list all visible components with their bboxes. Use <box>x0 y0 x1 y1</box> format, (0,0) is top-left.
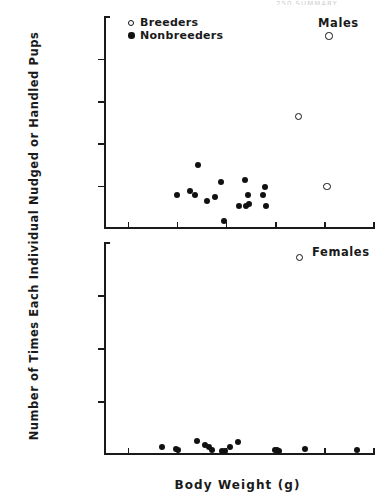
legend: Breeders Nonbreeders <box>128 16 223 42</box>
data-point <box>204 198 210 204</box>
data-point <box>195 162 201 168</box>
legend-item-nonbreeders: Nonbreeders <box>128 29 223 42</box>
data-point <box>354 447 360 453</box>
x-tick <box>128 448 130 455</box>
data-point <box>260 192 266 198</box>
data-point <box>159 444 165 450</box>
data-point <box>325 32 332 39</box>
data-point <box>209 447 215 453</box>
x-tick <box>373 222 375 229</box>
panel-label-males: Males <box>318 16 359 30</box>
filled-circle-icon <box>128 32 140 39</box>
data-point <box>235 439 241 445</box>
plot-area-females: 90180270360 102030405060 <box>104 243 374 455</box>
data-point <box>302 446 308 452</box>
y-tick <box>98 186 105 188</box>
y-tick <box>98 401 105 403</box>
x-tick <box>324 448 326 455</box>
x-tick <box>275 222 277 229</box>
data-point <box>218 179 224 185</box>
y-tick <box>98 143 105 145</box>
y-axis-title: Number of Times Each Individual Nudged o… <box>27 26 41 446</box>
data-point <box>295 113 302 120</box>
data-point <box>245 192 251 198</box>
data-point <box>262 184 268 190</box>
open-circle-icon <box>128 20 140 26</box>
y-tick <box>98 101 105 103</box>
x-tick <box>373 448 375 455</box>
data-point <box>323 183 330 190</box>
y-axis-line-males <box>104 17 106 229</box>
data-point <box>174 192 180 198</box>
x-axis-title: Body Weight (g) <box>95 478 380 492</box>
legend-item-breeders: Breeders <box>128 16 223 29</box>
y-tick <box>104 16 110 18</box>
data-point <box>227 444 233 450</box>
panel-males: 20406080100 Breeders Nonbreeders <box>104 17 374 229</box>
x-tick <box>128 222 130 229</box>
panel-label-females: Females <box>312 245 370 259</box>
data-point <box>192 192 198 198</box>
legend-label-breeders: Breeders <box>140 16 198 29</box>
data-point <box>242 177 248 183</box>
y-tick <box>98 59 105 61</box>
y-tick <box>98 348 105 350</box>
data-point <box>221 218 227 224</box>
data-point <box>236 203 242 209</box>
page-header-crop-artifact: 250 SUMMARY <box>276 0 384 5</box>
data-point <box>263 203 269 209</box>
panel-females: 90180270360 102030405060 <box>104 243 374 455</box>
data-point <box>194 438 200 444</box>
scatter-figure: 250 SUMMARY Number of Times Each Individ… <box>0 0 388 502</box>
data-point <box>175 447 181 453</box>
x-tick <box>177 222 179 229</box>
data-point <box>246 201 252 207</box>
data-point <box>212 194 218 200</box>
y-tick <box>104 242 110 244</box>
plot-area-males: 20406080100 <box>104 17 374 229</box>
x-axis-line-females <box>104 453 374 455</box>
y-tick <box>98 295 105 297</box>
legend-label-nonbreeders: Nonbreeders <box>140 29 223 42</box>
data-point <box>296 254 303 261</box>
x-tick <box>324 222 326 229</box>
x-axis-line-males <box>104 227 374 229</box>
